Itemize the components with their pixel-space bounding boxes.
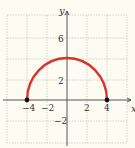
tick-x-neg2: −2 (41, 103, 54, 113)
tick-y-2: 2 (58, 76, 64, 86)
semicircle-chart: y x 6 2 −2 −4 −2 2 4 (0, 0, 135, 148)
tick-y-neg2: −2 (54, 116, 67, 126)
endpoint-right (105, 98, 110, 103)
endpoint-left (25, 98, 30, 103)
tick-x-2: 2 (84, 103, 90, 113)
x-axis-label: x (131, 103, 135, 114)
y-axis-label: y (58, 5, 65, 16)
tick-x-neg4: −4 (22, 103, 36, 113)
tick-x-4: 4 (104, 103, 110, 113)
tick-y-6: 6 (58, 34, 64, 44)
